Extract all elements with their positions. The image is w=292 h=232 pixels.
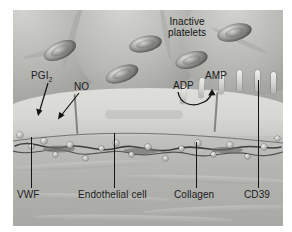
vwf-bead — [17, 132, 23, 138]
endothelial-cell-leader-line — [114, 133, 115, 188]
label-inactive-platelets-line1: Inactive — [169, 16, 204, 27]
vwf-bead — [129, 152, 134, 157]
label-cd39: CD39 — [244, 189, 270, 200]
vwf-bead — [275, 136, 280, 141]
label-pgi2-text: PGI — [31, 70, 49, 81]
label-collagen: Collagen — [174, 189, 214, 200]
cd39-receptor-3 — [237, 70, 242, 92]
endothelial-nucleus-hint — [105, 110, 183, 119]
adp-to-amp-arrow — [176, 88, 218, 110]
label-amp: AMP — [205, 70, 227, 81]
label-amp-text: AMP — [205, 70, 227, 81]
label-endothelial-cell: Endothelial cell — [78, 189, 147, 200]
vwf-bead — [145, 144, 151, 150]
vwf-bead — [245, 154, 250, 159]
figure-root: Inactive platelets PGI2 NO ADP AMP VWF E… — [0, 0, 292, 232]
label-inactive-platelets-line2: platelets — [168, 27, 206, 38]
vwf-bead — [41, 138, 47, 144]
vwf-bead — [53, 152, 58, 157]
vwf-bead — [261, 144, 267, 150]
vwf-bead — [179, 146, 184, 151]
cd39-receptor-5 — [271, 72, 276, 94]
no-arrow — [55, 91, 81, 121]
vwf-bead — [211, 152, 216, 157]
vwf-bead — [163, 156, 168, 161]
collagen-leader-line — [196, 142, 197, 188]
vwf-bead — [67, 142, 73, 148]
label-endothelial-cell-text: Endothelial cell — [78, 189, 147, 200]
vwf-leader-line — [31, 137, 32, 188]
label-vwf: VWF — [17, 189, 40, 200]
cd39-leader-line — [258, 80, 259, 188]
vwf-bead — [83, 156, 88, 161]
illustration-plate — [13, 10, 283, 226]
label-vwf-text: VWF — [17, 189, 40, 200]
pgi2-arrow — [34, 81, 56, 117]
vwf-bead — [99, 146, 104, 151]
label-collagen-text: Collagen — [174, 189, 214, 200]
label-cd39-text: CD39 — [244, 189, 270, 200]
vwf-bead — [227, 142, 233, 148]
label-inactive-platelets: Inactive platelets — [168, 16, 206, 38]
